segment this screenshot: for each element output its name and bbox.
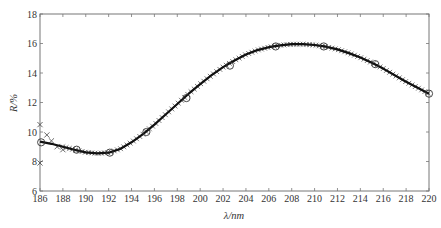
x-tick-label: 194 — [124, 193, 139, 204]
x-tick-label: 192 — [101, 193, 116, 204]
x-tick-label: 198 — [170, 193, 185, 204]
x-tick-label: 204 — [238, 193, 253, 204]
y-tick-label: 16 — [27, 38, 37, 49]
y-axis: 681012141618 — [27, 9, 429, 197]
x-tick-label: 202 — [216, 193, 231, 204]
x-axis: 1861881901921941961982002022042062082102… — [33, 14, 437, 204]
x-tick-label: 200 — [193, 193, 208, 204]
y-axis-label: R/% — [8, 94, 19, 113]
x-tick-label: 190 — [78, 193, 93, 204]
x-tick-label: 218 — [399, 193, 414, 204]
x-tick-label: 212 — [330, 193, 345, 204]
x-tick-label: 188 — [55, 193, 70, 204]
y-tick-label: 8 — [32, 156, 37, 167]
y-tick-label: 10 — [27, 127, 37, 138]
x-axis-label: λ/nm — [223, 210, 245, 221]
x-tick-label: 196 — [147, 193, 162, 204]
y-tick-label: 12 — [27, 97, 37, 108]
reflectance-chart: 1861881901921941961982002022042062082102… — [0, 0, 441, 228]
plot-frame — [40, 14, 429, 191]
fit-curve-line — [40, 44, 429, 153]
y-tick-label: 18 — [27, 9, 37, 20]
x-tick-label: 210 — [307, 193, 322, 204]
x-tick-label: 214 — [353, 193, 368, 204]
data-series — [37, 42, 432, 166]
x-tick-label: 208 — [284, 193, 299, 204]
x-tick-label: 216 — [376, 193, 391, 204]
y-tick-label: 14 — [27, 68, 37, 79]
x-tick-label: 220 — [422, 193, 437, 204]
x-tick-label: 206 — [261, 193, 276, 204]
x-marker — [44, 132, 49, 137]
y-tick-label: 6 — [32, 186, 37, 197]
